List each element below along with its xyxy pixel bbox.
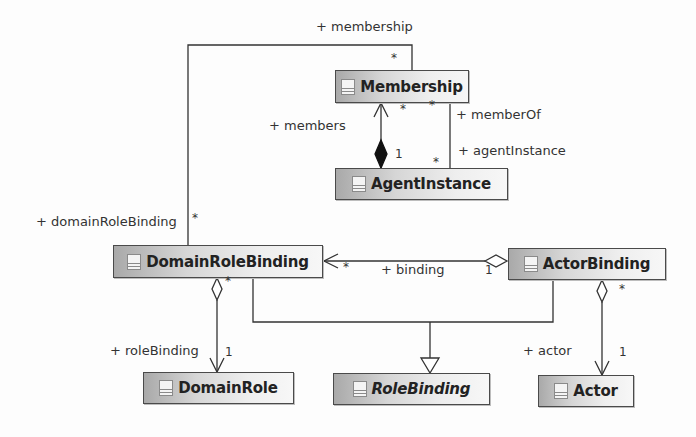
- mult-members-one: 1: [395, 147, 403, 161]
- class-icon: [159, 380, 173, 396]
- class-icon: [127, 254, 141, 270]
- class-icon: [352, 176, 366, 192]
- mult-agentinstance-star: *: [433, 155, 439, 169]
- diagram-canvas: Membership AgentInstance DomainRoleBindi…: [0, 0, 696, 437]
- mult-binding-star: *: [343, 260, 349, 274]
- class-icon: [341, 79, 355, 95]
- class-name: Actor: [573, 382, 617, 400]
- class-membership[interactable]: Membership: [335, 70, 469, 103]
- composition-diamond: [375, 140, 387, 168]
- class-domainrole[interactable]: DomainRole: [143, 372, 294, 404]
- mult-drb-agg-star: *: [225, 274, 231, 288]
- role-label-members: + members: [269, 118, 346, 133]
- class-name: RoleBinding: [372, 380, 471, 398]
- mult-members-star: *: [400, 102, 406, 116]
- class-rolebinding[interactable]: RoleBinding: [333, 373, 490, 405]
- role-label-actor: + actor: [523, 343, 572, 358]
- class-name: AgentInstance: [371, 175, 491, 193]
- mult-membership-right-star: *: [429, 98, 435, 112]
- mult-domainrolebinding-left: *: [192, 211, 198, 225]
- class-name: DomainRole: [178, 379, 278, 397]
- generalization-triangle: [421, 358, 439, 373]
- mult-rolebinding-one: 1: [225, 345, 233, 359]
- actor-diamond: [597, 280, 607, 302]
- role-label-agentinstance: + agentInstance: [458, 143, 566, 158]
- mult-binding-one: 1: [485, 263, 493, 277]
- mult-membership-top: *: [391, 51, 397, 65]
- mult-actor-one: 1: [619, 345, 627, 359]
- class-agentinstance[interactable]: AgentInstance: [335, 168, 508, 200]
- class-icon: [554, 383, 568, 399]
- class-name: ActorBinding: [543, 255, 651, 273]
- role-label-membership: + membership: [316, 19, 413, 34]
- class-actor[interactable]: Actor: [538, 375, 634, 407]
- role-label-domainrolebinding: + domainRoleBinding: [36, 214, 177, 229]
- class-name: Membership: [360, 78, 463, 96]
- role-label-rolebinding: + roleBinding: [110, 343, 199, 358]
- generalization-drb-line: [253, 277, 553, 322]
- mult-ab-agg-star: *: [619, 282, 625, 296]
- class-icon: [353, 381, 367, 397]
- class-actorbinding[interactable]: ActorBinding: [508, 248, 666, 280]
- role-label-binding: + binding: [381, 262, 444, 277]
- role-label-memberof: + memberOf: [456, 107, 541, 122]
- class-name: DomainRoleBinding: [146, 253, 309, 271]
- class-icon: [524, 256, 538, 272]
- class-domainrolebinding[interactable]: DomainRoleBinding: [113, 245, 323, 278]
- rolebinding-diamond: [212, 278, 222, 300]
